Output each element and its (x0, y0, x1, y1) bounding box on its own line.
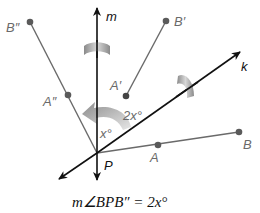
point-a-double-prime (65, 92, 72, 99)
label-a: A (149, 150, 159, 165)
segment-a-prime-b-prime (126, 21, 166, 96)
caption-m: m∠ (72, 194, 96, 210)
caption: m∠BPB″ = 2x° (72, 194, 167, 210)
segment-b-double-prime-p (30, 22, 97, 153)
label-angle-x: x° (99, 126, 112, 141)
label-b-double-prime: B″ (6, 20, 20, 35)
caption-text: BPB″ = 2x° (96, 194, 168, 210)
label-a-prime: A′ (109, 78, 122, 93)
label-m: m (106, 9, 117, 24)
line-k-lower (59, 153, 97, 179)
label-a-double-prime: A″ (42, 94, 57, 109)
point-b-double-prime (27, 19, 34, 26)
point-b-prime (163, 18, 170, 25)
line-k (97, 52, 240, 153)
reflection-diagram: m k P B″ A″ A′ B′ A B 2x° x° m∠BPB″ = 2x… (0, 0, 260, 213)
point-a-prime (123, 93, 130, 100)
point-b (236, 129, 243, 136)
point-a (155, 142, 162, 149)
label-b: B (243, 137, 252, 152)
label-b-prime: B′ (174, 14, 186, 29)
label-p: P (104, 158, 113, 173)
label-k: k (241, 59, 249, 74)
segment-p-b (97, 132, 239, 153)
label-angle-2x: 2x° (122, 108, 142, 123)
